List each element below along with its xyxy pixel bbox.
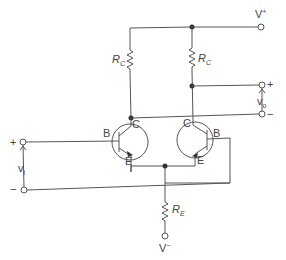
vi-minus-terminal — [21, 187, 27, 193]
top-rail — [130, 24, 264, 45]
rc-right-label: RC — [198, 52, 212, 66]
vminus-label: V− — [159, 242, 170, 254]
vo-minus-label: − — [267, 108, 273, 120]
resistor-rc-right — [189, 27, 195, 70]
rc-left-label: RC — [112, 53, 126, 67]
left-collector-label: C — [132, 118, 140, 130]
vo-label: vo — [257, 95, 267, 109]
left-base-label: B — [103, 127, 110, 139]
re-label: RE — [172, 203, 185, 217]
vo-plus-terminal — [259, 82, 265, 88]
vplus-terminal — [258, 24, 264, 30]
circuit-diagram: V+ RC RC + vo − C B E C B E — [0, 0, 286, 260]
vi-plus-label: + — [10, 136, 16, 148]
vo-plus-label: + — [267, 78, 273, 90]
vi-label: vi — [18, 162, 26, 176]
vo-minus-terminal — [259, 111, 265, 117]
resistor-rc-left — [127, 45, 133, 72]
left-emitter-label: E — [125, 155, 132, 167]
resistor-re — [162, 202, 168, 233]
vi-minus-label: − — [10, 183, 16, 195]
vminus-terminal — [162, 233, 168, 239]
vi-plus-terminal — [20, 139, 26, 145]
vplus-label: V+ — [255, 8, 266, 20]
right-base-label: B — [213, 127, 220, 139]
right-collector-label: C — [183, 117, 191, 129]
right-emitter-label: E — [197, 154, 204, 166]
